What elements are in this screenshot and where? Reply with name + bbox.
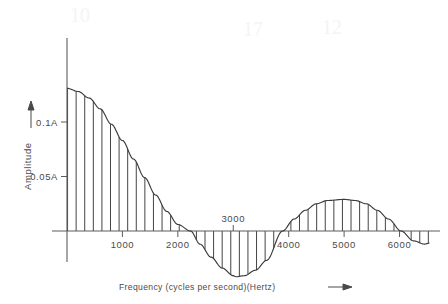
y-tick-label: 0.05A bbox=[30, 171, 58, 182]
x-tick-label: 3000 bbox=[221, 213, 245, 224]
up-arrow-icon bbox=[28, 101, 34, 110]
x-tick-label: 1000 bbox=[111, 239, 135, 250]
x-tick-label: 5000 bbox=[332, 239, 356, 250]
x-tick-label: 4000 bbox=[277, 239, 301, 250]
ghost-mark: 12 bbox=[322, 16, 342, 38]
y-tick-layer: 0.1A0.05A bbox=[30, 117, 67, 183]
chart-figure: 10 17 12 0.1A0.05A 100020003000400050006… bbox=[0, 0, 448, 304]
ghost-mark: 17 bbox=[243, 18, 263, 40]
ghost-marks-layer: 10 17 12 bbox=[70, 4, 342, 40]
x-axis-title: Frequency (cycles per second)(Hertz) bbox=[119, 282, 275, 292]
chart-svg: 10 17 12 0.1A0.05A 100020003000400050006… bbox=[0, 0, 448, 304]
y-axis-title: Amplitude bbox=[22, 142, 33, 190]
x-tick-label: 6000 bbox=[388, 239, 412, 250]
x-tick-label: 2000 bbox=[166, 239, 190, 250]
ghost-mark: 10 bbox=[70, 4, 90, 26]
y-tick-label: 0.1A bbox=[36, 117, 58, 128]
y-axis-title-group: Amplitude bbox=[22, 101, 34, 190]
x-axis-title-group: Frequency (cycles per second)(Hertz) bbox=[119, 282, 352, 292]
right-arrow-icon bbox=[343, 284, 352, 290]
